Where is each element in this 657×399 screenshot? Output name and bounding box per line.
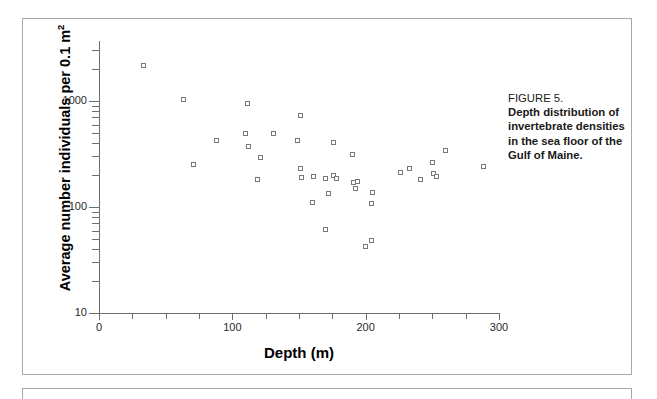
data-point (481, 164, 486, 169)
data-point (369, 238, 374, 243)
data-point (334, 176, 339, 181)
figure-page-frame: 101001000 0100200300 Average number indi… (22, 18, 632, 375)
figure-caption-label: FIGURE 5. (508, 91, 626, 105)
data-point (355, 179, 360, 184)
plot-data-points (23, 19, 633, 376)
data-point (258, 155, 263, 160)
data-point (246, 144, 251, 149)
data-point (311, 174, 316, 179)
next-page-frame (22, 388, 632, 399)
figure-caption-body: Depth distribution of invertebrate densi… (508, 105, 626, 162)
data-point (181, 97, 186, 102)
data-point (430, 160, 435, 165)
scatter-chart: 101001000 0100200300 Average number indi… (23, 19, 633, 376)
data-point (271, 131, 276, 136)
data-point (255, 177, 260, 182)
data-point (398, 170, 403, 175)
data-point (298, 166, 303, 171)
data-point (443, 148, 448, 153)
data-point (407, 166, 412, 171)
data-point (434, 174, 439, 179)
data-point (418, 177, 423, 182)
data-point (299, 175, 304, 180)
data-point (370, 190, 375, 195)
data-point (191, 162, 196, 167)
data-point (214, 138, 219, 143)
data-point (295, 138, 300, 143)
data-point (243, 131, 248, 136)
data-point (369, 201, 374, 206)
data-point (141, 63, 146, 68)
data-point (323, 227, 328, 232)
data-point (353, 186, 358, 191)
data-point (298, 113, 303, 118)
data-point (310, 200, 315, 205)
data-point (323, 176, 328, 181)
data-point (245, 101, 250, 106)
data-point (363, 244, 368, 249)
data-point (326, 191, 331, 196)
figure-caption: FIGURE 5. Depth distribution of inverteb… (508, 91, 626, 162)
data-point (350, 152, 355, 157)
data-point (331, 140, 336, 145)
